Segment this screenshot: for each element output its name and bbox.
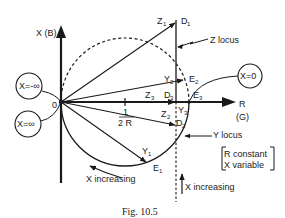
y-locus-label: Y locus (213, 130, 243, 140)
label-y1: Y1 (142, 146, 152, 157)
tick-numerator: 1 (123, 107, 128, 117)
x-axis-arrowhead (56, 25, 66, 38)
x-inf-connector (41, 102, 61, 121)
label-z2: Z2 (161, 109, 171, 120)
label-d2: D2 (176, 118, 186, 129)
svg-text:2: 2 (195, 79, 199, 85)
svg-text:1: 1 (159, 168, 163, 174)
svg-text:1: 1 (163, 21, 167, 27)
svg-text:1: 1 (187, 21, 191, 27)
note-x-variable: X variable (224, 160, 264, 170)
origin-label: 0 (52, 100, 57, 110)
note-bracket-right (270, 147, 274, 170)
svg-text:3: 3 (151, 95, 155, 101)
x-neg-inf-label: X=-∞ (19, 81, 40, 91)
x-increasing-right-label: X increasing (185, 182, 235, 192)
svg-text:1: 1 (148, 151, 152, 157)
r-axis-sublabel: (G) (236, 112, 249, 122)
z-locus-label: Z locus (210, 35, 240, 45)
x-inf-label: X=∞ (17, 119, 35, 129)
label-e1: E1 (153, 163, 163, 174)
x-zero-label: X=0 (240, 71, 256, 81)
point-e3 (187, 100, 191, 104)
label-y2: Y2 (164, 74, 174, 85)
label-z3: Z3 (145, 90, 155, 101)
x-increasing-left-label: X increasing (86, 174, 136, 184)
x-axis-label: X (B) (36, 28, 57, 38)
admittance-diagram: X (B) R (G) 0 1 2 R X=-∞ X=∞ X=0 Z1 D1 Y… (0, 0, 285, 218)
note-r-constant: R constant (224, 149, 268, 159)
label-d1: D1 (181, 16, 191, 27)
tick-denominator: 2 R (118, 118, 133, 128)
svg-text:2: 2 (167, 114, 171, 120)
z-locus-pointer-head (177, 44, 183, 49)
r-axis-arrowhead (222, 97, 236, 107)
label-e3: E3 (193, 90, 203, 101)
vector-z1 (61, 23, 175, 102)
label-z1: Z1 (157, 16, 167, 27)
figure-caption: Fig. 10.5 (122, 206, 158, 217)
label-d3: D3 (164, 90, 174, 101)
svg-text:3: 3 (170, 95, 174, 101)
label-e2: E2 (189, 74, 199, 85)
r-axis-label: R (239, 99, 246, 109)
label-y3: Y3 (178, 105, 188, 116)
svg-text:3: 3 (199, 95, 203, 101)
